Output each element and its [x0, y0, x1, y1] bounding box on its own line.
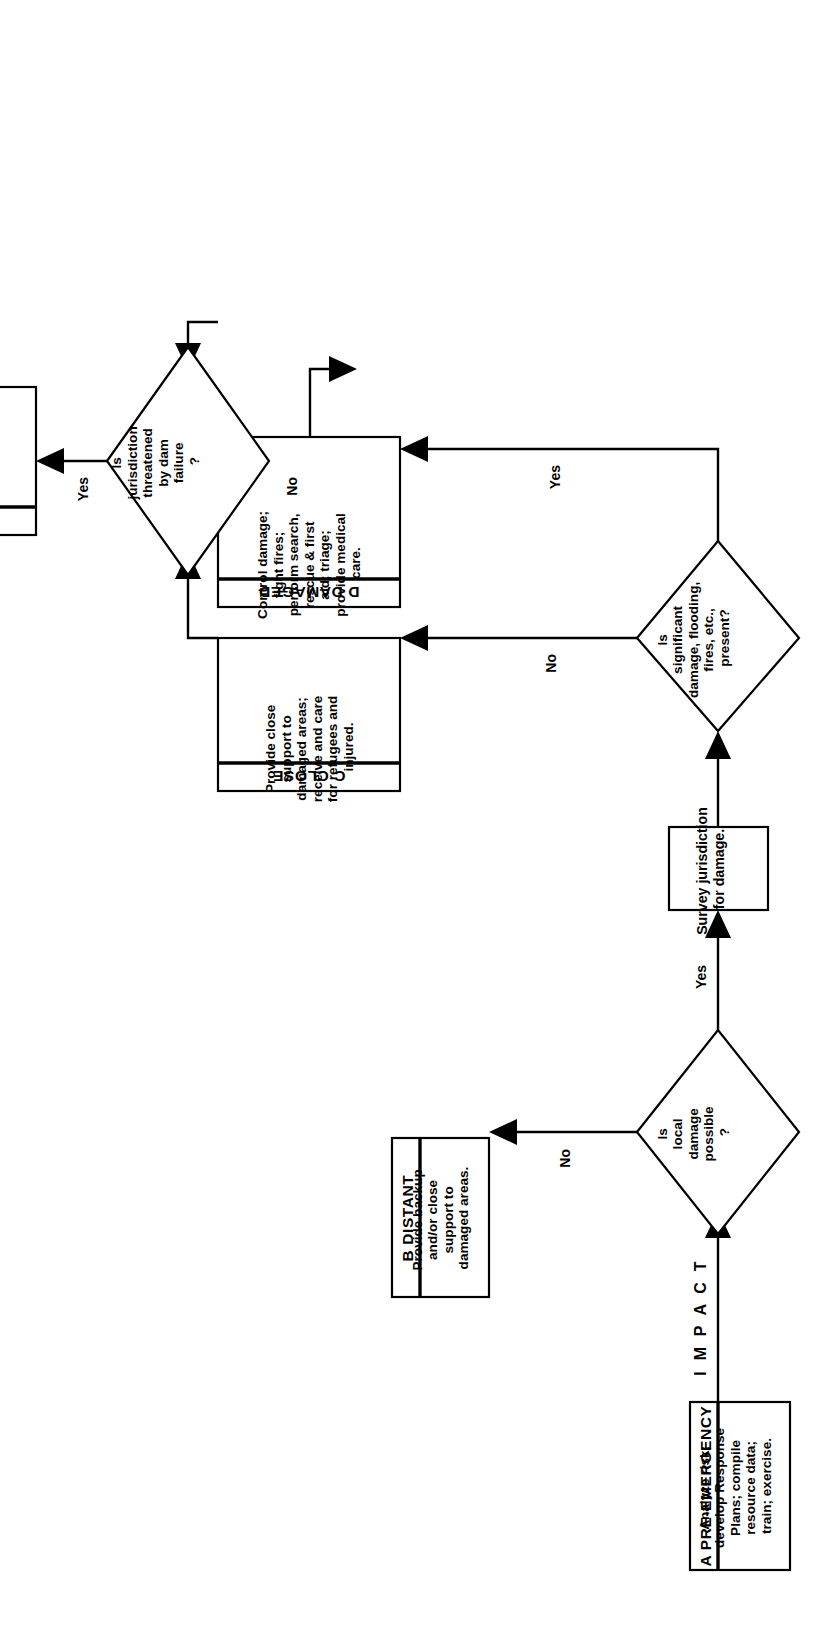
node-b-distant[interactable]: B DISTANT Provide backup and/or close su…: [392, 1138, 489, 1297]
arrowhead-decision2-to-d: [400, 436, 428, 462]
survey-text: Survey jurisdiction for damage.: [694, 803, 727, 935]
decision1-no-label: No: [557, 1149, 573, 1168]
decision2-yes-label: Yes: [547, 465, 563, 489]
connector-decision2-to-d: [424, 449, 718, 541]
node-decision-local-damage[interactable]: Is local damage possible ?: [637, 1030, 799, 1234]
arrowhead-decision3-no-to-d: [329, 356, 357, 382]
decision2-no-label: No: [543, 654, 559, 673]
decision3-yes-label: Yes: [75, 477, 91, 501]
arrowhead-decision2-to-c: [400, 625, 428, 651]
node-e-box: [0, 387, 36, 535]
impact-label: I M P A C T: [692, 1258, 709, 1375]
arrowhead-decision3-to-e: [36, 448, 64, 474]
arrowhead-decision1-to-b: [489, 1119, 517, 1145]
node-decision-significant-damage[interactable]: Is significant damage, flooding, fires, …: [637, 541, 799, 731]
decision1-yes-label: Yes: [693, 965, 709, 989]
connector-c-to-decision3: [188, 575, 218, 638]
node-a-body: Analyze risk; develop Response Plans; co…: [697, 1424, 774, 1548]
emergency-response-flowchart: A PRE-EMERGENCY Analyze risk; develop Re…: [0, 0, 818, 1627]
arrowhead-survey-to-decision2: [705, 731, 731, 759]
node-a-pre-emergency[interactable]: A PRE-EMERGENCY Analyze risk; develop Re…: [690, 1402, 790, 1570]
decision3-no-label: No: [284, 477, 300, 496]
node-e-evacuate[interactable]: E EVACUATE Evacuate threatened or untena…: [0, 387, 36, 544]
node-c-close[interactable]: C CLOSE Provide close support to damaged…: [218, 638, 400, 802]
flowchart-canvas: A PRE-EMERGENCY Analyze risk; develop Re…: [0, 0, 818, 1627]
